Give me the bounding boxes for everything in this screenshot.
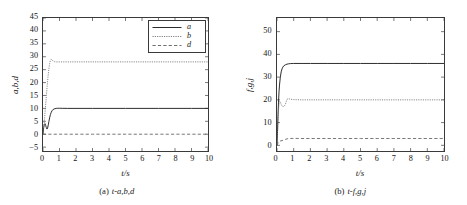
y-tick-label: 35 — [12, 39, 38, 47]
legend-label-b: b — [187, 32, 191, 40]
y-tick-label: 30 — [12, 52, 38, 60]
x-tick-label: 6 — [375, 155, 379, 163]
series-line-f — [277, 63, 444, 145]
x-tick-label: 4 — [341, 155, 345, 163]
y-tick-label: 0 — [12, 131, 38, 139]
legend-label-d: d — [187, 41, 191, 49]
y-axis-title-b: f,g,j — [244, 77, 254, 91]
legend-a: abd — [148, 20, 206, 53]
caption-a: (a)t-a,b,d — [0, 186, 234, 196]
x-tick-label: 10 — [205, 155, 213, 163]
x-tick-label: 3 — [90, 155, 94, 163]
legend-item-b: b — [152, 32, 202, 41]
x-tick-label: 6 — [140, 155, 144, 163]
figure-two-panel: 012345678910−5051015202530354045 t/s a,b… — [0, 0, 467, 205]
y-tick-label: 40 — [12, 26, 38, 34]
y-tick-label: 20 — [246, 96, 272, 104]
legend-swatch-d — [152, 45, 182, 46]
legend-item-d: d — [152, 41, 202, 50]
x-tick-label: 0 — [273, 155, 277, 163]
x-tick-label: 5 — [358, 155, 362, 163]
legend-item-a: a — [152, 23, 202, 32]
series-line-j — [277, 138, 444, 145]
y-tick-label: −5 — [12, 144, 38, 152]
y-tick-label: 10 — [246, 119, 272, 127]
x-tick-label: 2 — [73, 155, 77, 163]
x-tick-label: 8 — [174, 155, 178, 163]
x-tick-label: 2 — [307, 155, 311, 163]
caption-a-text: t-a,b,d — [112, 186, 134, 196]
x-tick-label: 10 — [440, 155, 448, 163]
x-axis-title-a: t/s — [121, 168, 130, 178]
y-tick-label: 10 — [12, 105, 38, 113]
subfigure-a: 012345678910−5051015202530354045 t/s a,b… — [0, 0, 234, 205]
caption-b: (b)t-f,g,j — [234, 186, 467, 196]
y-tick-label: 0 — [246, 142, 272, 150]
y-tick-label: 25 — [12, 65, 38, 73]
caption-a-number: (a) — [99, 186, 109, 196]
x-tick-label: 1 — [290, 155, 294, 163]
y-tick-label: 5 — [12, 118, 38, 126]
y-tick-label: 45 — [12, 13, 38, 21]
legend-label-a: a — [187, 23, 191, 31]
caption-b-text: t-f,g,j — [347, 186, 366, 196]
x-tick-label: 8 — [409, 155, 413, 163]
x-tick-label: 7 — [157, 155, 161, 163]
x-tick-label: 0 — [40, 155, 44, 163]
x-tick-label: 7 — [392, 155, 396, 163]
x-tick-label: 9 — [190, 155, 194, 163]
x-tick-label: 5 — [123, 155, 127, 163]
x-tick-label: 1 — [57, 155, 61, 163]
series-line-a — [43, 108, 208, 134]
plot-frame-b — [276, 17, 445, 152]
subfigure-b: 01234567891001020304050 t/s f,g,j fgj (b… — [234, 0, 467, 205]
x-tick-label: 9 — [426, 155, 430, 163]
x-tick-label: 3 — [324, 155, 328, 163]
series-line-b — [43, 59, 208, 134]
x-axis-title-b: t/s — [356, 168, 365, 178]
x-tick-label: 4 — [107, 155, 111, 163]
plot-area-b — [277, 18, 444, 151]
y-axis-title-a: a,b,d — [10, 76, 20, 94]
legend-swatch-b — [152, 36, 182, 37]
legend-swatch-a — [152, 27, 182, 28]
y-tick-label: 50 — [246, 27, 272, 35]
y-tick-label: 40 — [246, 50, 272, 58]
line-chart-b — [277, 18, 444, 151]
caption-b-number: (b) — [334, 186, 344, 196]
